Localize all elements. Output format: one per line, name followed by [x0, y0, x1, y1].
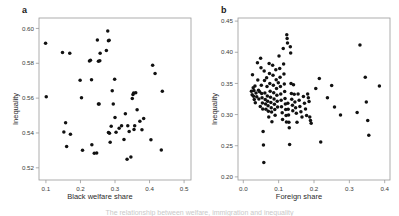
data-point — [142, 117, 146, 121]
data-point — [127, 130, 131, 134]
data-point — [286, 102, 290, 106]
data-point — [291, 103, 295, 107]
data-point — [314, 87, 318, 91]
data-point — [291, 109, 295, 113]
y-tick-label: 0.25 — [221, 142, 234, 149]
data-point — [65, 145, 69, 149]
data-point — [275, 94, 279, 98]
data-point — [151, 63, 155, 67]
data-point — [292, 93, 296, 97]
y-tick-label: 0.54 — [22, 129, 35, 136]
y-tick-label: 0.45 — [221, 17, 234, 24]
data-point — [283, 90, 287, 94]
data-point — [108, 141, 112, 145]
data-point — [98, 51, 102, 55]
data-point — [252, 94, 256, 98]
x-tick-label: 0.5 — [180, 185, 189, 192]
data-point — [253, 84, 257, 88]
data-point — [278, 75, 282, 79]
data-point — [262, 161, 266, 165]
data-point — [90, 78, 94, 82]
y-tick-label: 0.58 — [22, 59, 35, 66]
data-point — [153, 72, 157, 76]
data-point — [262, 69, 266, 73]
data-point — [268, 89, 272, 93]
plot-frame — [39, 18, 191, 180]
data-point — [308, 115, 312, 119]
data-point — [280, 111, 284, 115]
data-point — [105, 49, 109, 53]
data-point — [106, 29, 110, 32]
data-point — [307, 96, 311, 100]
data-point — [138, 120, 142, 124]
data-point — [256, 78, 260, 82]
data-point — [288, 143, 292, 147]
data-point — [261, 107, 265, 111]
data-point — [270, 110, 274, 114]
data-point — [298, 105, 302, 109]
data-point — [268, 72, 272, 76]
data-point — [277, 81, 281, 85]
data-point — [269, 95, 273, 99]
x-tick-label: 0.3 — [111, 185, 120, 192]
x-tick-label: 0.1 — [42, 185, 51, 192]
panel-a-plot: 0.10.20.30.40.50.520.540.560.580.60 — [0, 0, 200, 200]
data-point — [133, 124, 137, 128]
data-point — [289, 51, 293, 55]
data-point — [256, 61, 260, 65]
data-point — [299, 110, 303, 114]
data-point — [367, 133, 371, 137]
y-tick-label: 0.52 — [22, 164, 35, 171]
panel-a-y-axis-title: Inequality — [11, 93, 20, 125]
data-point — [108, 131, 112, 135]
figure-caption: The relationship between welfare, immigr… — [0, 208, 399, 216]
data-point — [378, 84, 382, 88]
plot-frame — [238, 18, 390, 180]
data-point — [330, 84, 334, 88]
data-point — [257, 97, 261, 101]
data-point — [339, 113, 343, 117]
data-point — [326, 96, 330, 100]
data-point — [274, 68, 278, 72]
data-point — [282, 47, 286, 51]
data-point — [64, 121, 68, 125]
data-point — [270, 120, 274, 124]
data-point — [285, 37, 289, 41]
data-point — [107, 39, 111, 43]
data-point — [287, 113, 291, 117]
data-point — [261, 130, 265, 134]
x-tick-label: 0.1 — [274, 185, 283, 192]
data-point — [273, 103, 277, 107]
data-point — [275, 87, 279, 91]
data-point — [126, 124, 130, 128]
data-point — [266, 104, 270, 108]
x-tick-label: 0.0 — [239, 185, 248, 192]
data-point — [272, 84, 276, 88]
data-point — [62, 130, 65, 134]
data-point — [305, 114, 309, 118]
data-point — [307, 100, 311, 104]
data-point — [282, 62, 286, 66]
panel-b-plot: 0.00.10.20.30.40.200.250.300.350.400.45 — [199, 0, 399, 200]
data-point — [260, 92, 264, 96]
data-point — [124, 112, 128, 116]
data-point — [287, 121, 291, 125]
data-point — [286, 41, 290, 45]
data-point — [272, 97, 276, 101]
data-point — [366, 119, 370, 123]
data-point — [259, 66, 263, 70]
data-point — [282, 72, 286, 76]
data-point — [275, 99, 279, 103]
data-point — [358, 43, 362, 47]
x-tick-label: 0.2 — [310, 185, 319, 192]
data-point — [161, 90, 165, 94]
data-point — [68, 51, 72, 55]
data-point — [274, 78, 278, 82]
data-point — [129, 155, 133, 159]
data-point — [259, 56, 263, 60]
x-tick-label: 0.3 — [345, 185, 354, 192]
data-point — [267, 115, 271, 119]
data-point — [90, 143, 94, 147]
data-point — [295, 121, 299, 125]
y-tick-label: 0.35 — [221, 80, 234, 87]
